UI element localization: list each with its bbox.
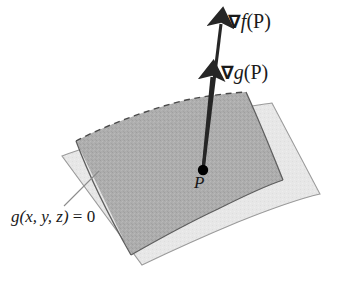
nabla-icon: ∇ (221, 62, 234, 83)
surface-equation-variables: (x, y, z) (20, 207, 69, 226)
label-point-p: P (194, 174, 204, 191)
gradient-level-surface-figure: ∇f(P) ∇g(P) P g(x, y, z) = 0 (0, 0, 341, 285)
label-gradient-g: ∇g(P) (221, 62, 268, 82)
label-gradient-g-argument: (P) (244, 61, 268, 83)
label-gradient-f-argument: (P) (246, 10, 270, 32)
label-gradient-g-function: g (234, 61, 244, 83)
nabla-icon: ∇ (228, 11, 241, 32)
surface-equation-relation: = 0 (69, 207, 96, 226)
label-gradient-f: ∇f(P) (228, 11, 271, 31)
surface-equation-function: g (11, 207, 20, 226)
figure-canvas (0, 0, 341, 285)
label-surface-equation: g(x, y, z) = 0 (11, 208, 95, 225)
